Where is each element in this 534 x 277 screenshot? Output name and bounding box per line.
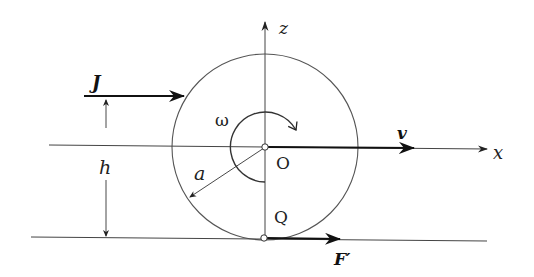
velocity-arrow [268,147,414,148]
contact-point [261,235,267,241]
velocity-label: v [397,123,408,143]
angular-velocity-label: ω [215,110,229,130]
ground-line [31,237,487,241]
friction-force-arrow [266,238,340,239]
radius-label: a [194,162,205,184]
height-label: h [99,156,111,178]
rolling-disk-diagram: z x J ω v O Q a h F′ [0,0,534,277]
impulse-label: J [89,72,102,93]
x-axis-line-left [49,145,265,147]
center-point [262,144,268,150]
contact-point-label: Q [274,207,288,227]
center-label: O [276,153,290,173]
x-axis-label: x [493,142,503,163]
friction-force-label: F′ [333,249,351,269]
z-axis-label: z [278,18,289,38]
